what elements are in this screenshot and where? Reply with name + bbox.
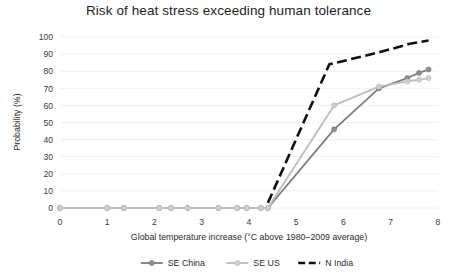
chart-container: Risk of heat stress exceeding human tole… <box>0 0 457 275</box>
data-point-marker <box>185 206 190 211</box>
y-axis-tick-label: 0 <box>48 203 53 213</box>
data-point-marker <box>332 127 337 132</box>
legend-item-n-india[interactable]: N India <box>298 258 353 268</box>
data-point-marker <box>265 206 270 211</box>
data-point-marker <box>121 206 126 211</box>
data-point-marker <box>216 206 221 211</box>
x-axis-tick-label: 5 <box>294 217 299 227</box>
chart-plot-area: 0102030405060708090100 012345678 Probabi… <box>0 0 457 275</box>
x-axis-tick-label: 0 <box>58 217 63 227</box>
data-point-marker <box>258 206 263 211</box>
y-axis-tick-label: 10 <box>43 186 53 196</box>
x-axis-tick-label: 3 <box>199 217 204 227</box>
y-axis-tick-label: 30 <box>43 152 53 162</box>
series-line <box>60 78 429 208</box>
x-axis-tick-label: 8 <box>436 217 441 227</box>
y-axis-tick-label: 50 <box>43 118 53 128</box>
y-axis-tick-label: 90 <box>43 49 53 59</box>
chart-legend: SE ChinaSE USN India <box>141 258 353 268</box>
data-point-marker <box>376 84 381 89</box>
data-point-marker <box>426 67 431 72</box>
y-axis-tick-label: 40 <box>43 135 53 145</box>
series-se-us <box>58 76 432 211</box>
data-point-marker <box>417 77 422 82</box>
x-axis-tick-labels: 012345678 <box>58 217 441 227</box>
legend-item-se-china[interactable]: SE China <box>141 258 205 268</box>
data-point-marker <box>426 76 431 81</box>
data-series-layer <box>58 40 432 210</box>
legend-item-label: SE China <box>168 258 205 268</box>
y-axis-tick-label: 100 <box>39 32 54 42</box>
y-axis-tick-label: 70 <box>43 84 53 94</box>
x-axis-tick-label: 1 <box>105 217 110 227</box>
x-axis-tick-label: 7 <box>388 217 393 227</box>
legend-marker-swatch <box>235 261 240 266</box>
y-axis-tick-label: 20 <box>43 169 53 179</box>
data-point-marker <box>244 206 249 211</box>
legend-marker-swatch <box>149 261 154 266</box>
x-axis-title: Global temperature increase (°C above 19… <box>131 232 367 242</box>
legend-item-label: SE US <box>253 258 280 268</box>
gridlines <box>60 37 438 208</box>
y-axis-title: Probability (%) <box>12 93 22 150</box>
data-point-marker <box>417 70 422 75</box>
data-point-marker <box>332 103 337 108</box>
y-axis-tick-label: 80 <box>43 66 53 76</box>
y-axis-tick-label: 60 <box>43 101 53 111</box>
series-line <box>60 69 429 208</box>
data-point-marker <box>157 206 162 211</box>
data-point-marker <box>235 206 240 211</box>
data-point-marker <box>58 206 63 211</box>
x-axis-tick-label: 4 <box>247 217 252 227</box>
data-point-marker <box>405 79 410 84</box>
data-point-marker <box>169 206 174 211</box>
data-point-marker <box>105 206 110 211</box>
legend-item-se-us[interactable]: SE US <box>226 258 280 268</box>
x-axis-tick-label: 6 <box>341 217 346 227</box>
x-axis-tick-label: 2 <box>152 217 157 227</box>
y-axis-tick-labels: 0102030405060708090100 <box>39 32 54 213</box>
legend-item-label: N India <box>325 258 353 268</box>
